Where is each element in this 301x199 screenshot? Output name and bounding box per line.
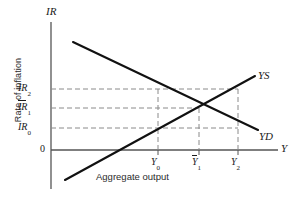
x-tick-y2-base: Y (231, 156, 237, 167)
y-tick-ir0-subscript: 0 (27, 129, 31, 137)
y-tick-label-zero: 0 (40, 144, 45, 154)
curve-label-yd: YD (259, 131, 273, 142)
y-tick-label-ir1: IR1 (18, 102, 31, 115)
y-tick-label-ir2: IR2 (18, 83, 31, 96)
yd-curve (73, 42, 258, 130)
overbar-ir1 (18, 100, 26, 101)
overbar-y1 (192, 155, 197, 156)
x-tick-y2-subscript: 2 (237, 164, 241, 172)
x-tick-label-y1: Y1 (192, 157, 201, 170)
x-axis-caption: Aggregate output (96, 171, 169, 182)
x-tick-label-y0: Y0 (151, 157, 160, 170)
x-tick-y0-base: Y (151, 156, 157, 167)
curve-label-ys: YS (258, 70, 270, 81)
y-tick-label-ir0: IR0 (18, 122, 31, 135)
y-tick-ir2-subscript: 2 (27, 90, 31, 98)
y-tick-ir1-subscript: 1 (27, 109, 31, 117)
x-tick-y1-overbar-group: Y (192, 157, 198, 167)
x-tick-y1-subscript: 1 (198, 164, 202, 172)
aggregate-supply-demand-chart: Rate of inflation IR Y IR2 IR1 IR0 0 Y0 … (0, 0, 301, 199)
x-tick-y1-base: Y (192, 156, 198, 167)
x-axis-symbol: Y (281, 143, 287, 154)
y-axis-symbol: IR (46, 6, 56, 17)
x-tick-label-y2: Y2 (231, 157, 240, 170)
